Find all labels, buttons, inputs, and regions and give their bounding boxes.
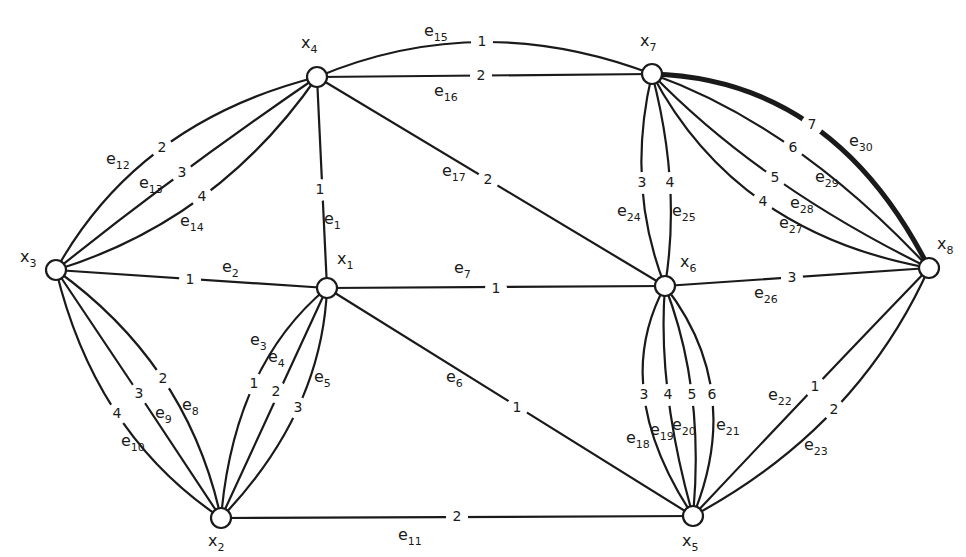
node-label-x8: x8 bbox=[937, 234, 953, 257]
edge-weight-e1: 1 bbox=[316, 181, 325, 197]
edge-weight-e6: 1 bbox=[513, 399, 522, 415]
edge-e29 bbox=[652, 74, 929, 268]
edge-weight-e8: 2 bbox=[159, 370, 168, 386]
edge-weight-e27: 4 bbox=[759, 193, 768, 209]
node-x5 bbox=[683, 506, 703, 526]
edge-weight-e28: 5 bbox=[771, 169, 780, 185]
node-label-x7: x7 bbox=[640, 31, 656, 54]
edge-weight-e24: 3 bbox=[638, 174, 647, 190]
edge-weight-e7: 1 bbox=[492, 280, 501, 296]
edge-weight-e5: 3 bbox=[294, 399, 303, 415]
edge-label-e11: e11 bbox=[398, 525, 422, 548]
edge-label-e24: e24 bbox=[617, 201, 641, 224]
edge-label-e5: e5 bbox=[314, 367, 331, 390]
edge-label-e15: e15 bbox=[424, 21, 448, 44]
node-label-x4: x4 bbox=[301, 33, 317, 56]
edge-weight-e20: 5 bbox=[688, 386, 697, 402]
edge-e28 bbox=[652, 74, 929, 268]
edge-weight-e23: 2 bbox=[830, 401, 839, 417]
node-x2 bbox=[211, 508, 231, 528]
edge-e4 bbox=[221, 288, 327, 518]
edge-label-e27: e27 bbox=[779, 213, 803, 236]
edge-weight-e10: 4 bbox=[113, 405, 122, 421]
edge-weight-e13: 3 bbox=[178, 164, 187, 180]
node-label-x2: x2 bbox=[208, 531, 224, 554]
edge-label-e30: e30 bbox=[849, 131, 873, 154]
edge-label-e2: e2 bbox=[222, 257, 239, 280]
edge-weight-e16: 2 bbox=[477, 67, 486, 83]
edge-label-e26: e26 bbox=[754, 283, 778, 306]
node-x6 bbox=[655, 276, 675, 296]
edge-label-e4: e4 bbox=[268, 347, 285, 370]
edge-weight-e19: 4 bbox=[664, 386, 673, 402]
graph-diagram: 111231123422341223456123434567 e1e2e3e4e… bbox=[0, 0, 966, 557]
edge-label-e16: e16 bbox=[434, 81, 458, 104]
edge-weight-e25: 4 bbox=[666, 174, 675, 190]
edge-label-e25: e25 bbox=[672, 201, 696, 224]
edge-label-e18: e18 bbox=[626, 428, 650, 451]
edge-weight-e14: 4 bbox=[198, 188, 207, 204]
edge-label-e23: e23 bbox=[804, 435, 828, 458]
edge-weight-e4: 2 bbox=[272, 383, 281, 399]
node-label-x1: x1 bbox=[337, 249, 353, 272]
edge-label-e1: e1 bbox=[324, 209, 341, 232]
node-label-x6: x6 bbox=[680, 252, 696, 275]
edge-label-e13: e13 bbox=[139, 173, 163, 196]
edge-label-e29: e29 bbox=[815, 167, 839, 190]
node-x4 bbox=[307, 67, 327, 87]
node-x8 bbox=[919, 258, 939, 278]
edge-label-e12: e12 bbox=[106, 149, 130, 172]
edge-weight-e3: 1 bbox=[250, 375, 259, 391]
edge-weight-e21: 6 bbox=[708, 386, 717, 402]
edge-label-e14: e14 bbox=[180, 211, 204, 234]
edge-label-e22: e22 bbox=[768, 385, 792, 408]
edge-weight-e11: 2 bbox=[453, 508, 462, 524]
edge-weight-e30: 7 bbox=[808, 116, 817, 132]
weight-labels-layer: 111231123422341223456123434567 bbox=[106, 31, 845, 528]
edge-e27 bbox=[652, 74, 929, 268]
node-label-x3: x3 bbox=[20, 247, 36, 270]
edge-label-e20: e20 bbox=[672, 415, 696, 438]
edge-label-e3: e3 bbox=[250, 330, 267, 353]
edge-weight-e12: 2 bbox=[158, 139, 167, 155]
edge-weight-e26: 3 bbox=[788, 269, 797, 285]
edge-weight-e15: 1 bbox=[478, 33, 487, 49]
edge-weight-e9: 3 bbox=[135, 385, 144, 401]
node-x7 bbox=[642, 64, 662, 84]
edge-weight-e29: 6 bbox=[789, 139, 798, 155]
edge-weight-e18: 3 bbox=[640, 386, 649, 402]
node-x1 bbox=[317, 278, 337, 298]
node-label-x5: x5 bbox=[682, 531, 698, 554]
node-x3 bbox=[46, 260, 66, 280]
edge-label-e7: e7 bbox=[454, 258, 471, 281]
edge-label-e21: e21 bbox=[716, 415, 740, 438]
edge-e30 bbox=[652, 74, 929, 268]
edge-weight-e17: 2 bbox=[484, 171, 493, 187]
edge-weight-e2: 1 bbox=[186, 271, 195, 287]
edge-weight-e22: 1 bbox=[811, 378, 820, 394]
